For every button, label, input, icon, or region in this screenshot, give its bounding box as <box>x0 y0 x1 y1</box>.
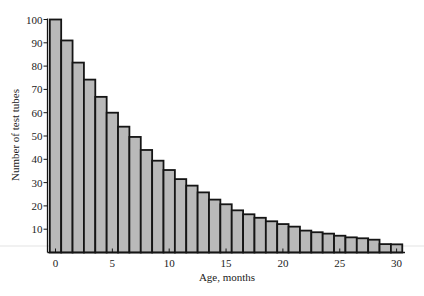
bar-month-22 <box>300 231 311 253</box>
y-tick-label: 30 <box>32 177 44 189</box>
y-tick-label: 60 <box>32 107 44 119</box>
bar-month-21 <box>289 227 300 253</box>
bar-month-0 <box>50 20 61 253</box>
y-tick-label: 100 <box>26 14 43 26</box>
bar-month-11 <box>175 179 186 252</box>
y-tick-label: 80 <box>32 60 44 72</box>
bar-month-2 <box>73 63 84 253</box>
x-tick-label: 5 <box>110 257 116 269</box>
bar-month-24 <box>323 234 334 253</box>
bar-month-28 <box>368 240 379 253</box>
bar-chart: 102030405060708090100 051015202530 Age, … <box>0 0 424 296</box>
bar-month-18 <box>254 218 265 253</box>
x-axis-label: Age, months <box>199 271 255 283</box>
y-axis: 102030405060708090100 <box>26 14 48 253</box>
bar-month-8 <box>141 150 152 253</box>
y-tick-label: 90 <box>32 37 44 49</box>
x-tick-label: 0 <box>53 257 59 269</box>
bar-month-1 <box>61 40 72 252</box>
bar-month-26 <box>345 237 356 252</box>
bar-month-14 <box>209 200 220 253</box>
y-tick-label: 40 <box>32 153 44 165</box>
y-axis-label: Number of test tubes <box>9 89 21 181</box>
bar-month-15 <box>220 204 231 252</box>
y-tick-label: 70 <box>32 83 44 95</box>
bar-month-4 <box>95 97 106 253</box>
x-tick-label: 15 <box>221 257 233 269</box>
bar-month-12 <box>186 186 197 253</box>
bar-month-5 <box>107 113 118 253</box>
bar-month-27 <box>357 238 368 252</box>
bar-month-29 <box>380 244 391 252</box>
x-tick-label: 10 <box>164 257 176 269</box>
bars-group <box>50 20 402 253</box>
bar-month-6 <box>118 127 129 253</box>
y-tick-label: 10 <box>32 223 44 235</box>
bar-month-7 <box>129 137 140 253</box>
x-tick-label: 25 <box>334 257 346 269</box>
bar-month-17 <box>243 214 254 252</box>
bar-month-9 <box>152 161 163 253</box>
y-tick-label: 20 <box>32 200 44 212</box>
y-tick-label: 50 <box>32 130 44 142</box>
x-tick-label: 20 <box>277 257 289 269</box>
bar-month-13 <box>198 192 209 252</box>
bar-month-23 <box>311 232 322 252</box>
bar-month-16 <box>232 210 243 252</box>
x-tick-label: 30 <box>391 257 403 269</box>
bar-month-10 <box>164 170 175 252</box>
bar-month-3 <box>84 80 95 253</box>
bar-month-20 <box>277 224 288 252</box>
bar-month-19 <box>266 221 277 252</box>
